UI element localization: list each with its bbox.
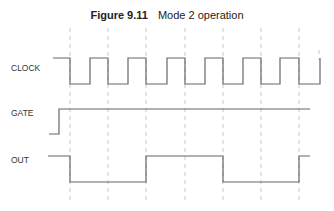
out-waveform	[48, 156, 310, 182]
clock-waveform	[53, 58, 320, 84]
clock-edge-guides	[70, 28, 299, 200]
gate-waveform	[49, 109, 310, 134]
timing-diagram	[0, 0, 334, 211]
